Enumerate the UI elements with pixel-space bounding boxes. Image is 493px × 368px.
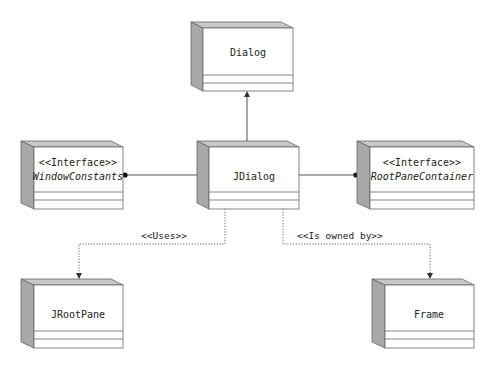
uml-diagram: <<Uses>> <<Is owned by>> Dialog JDialog … [0, 0, 493, 368]
class-name: WindowConstants [33, 171, 123, 182]
class-frame[interactable]: Frame [372, 279, 474, 348]
class-jrootpane[interactable]: JRootPane [21, 279, 123, 348]
owned-by-label: <<Is owned by>> [297, 230, 383, 241]
dependency-owned-by [283, 209, 430, 276]
class-rootpanecontainer[interactable]: <<Interface>> RootPaneContainer [357, 141, 474, 209]
uses-label: <<Uses>> [141, 230, 187, 241]
class-name: RootPaneContainer [371, 171, 473, 182]
dependency-uses [79, 209, 225, 276]
class-name: JRootPane [51, 309, 105, 320]
class-dialog[interactable]: Dialog [191, 22, 293, 91]
class-windowconstants[interactable]: <<Interface>> WindowConstants [21, 141, 123, 209]
class-jdialog[interactable]: JDialog [197, 141, 299, 209]
class-name: Dialog [230, 47, 266, 58]
class-stereotype: <<Interface>> [383, 157, 461, 168]
class-stereotype: <<Interface>> [39, 157, 117, 168]
class-name: Frame [414, 309, 444, 320]
class-name: JDialog [233, 171, 275, 182]
